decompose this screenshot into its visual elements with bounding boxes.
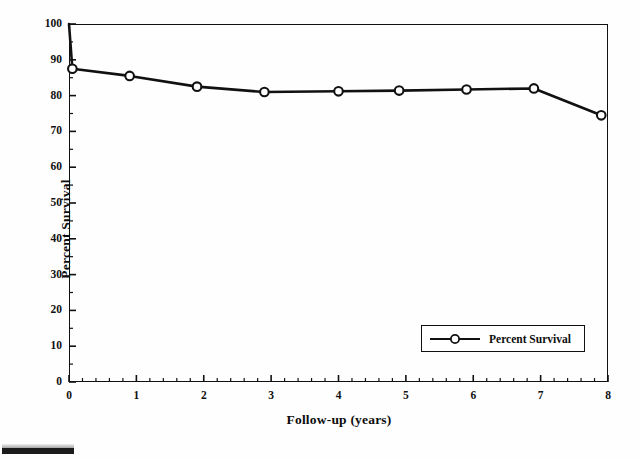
x-tick-label: 0	[66, 390, 72, 402]
legend[interactable]: Percent Survival	[421, 325, 585, 352]
x-tick-label: 7	[538, 390, 544, 402]
y-tick-label: 20	[28, 305, 62, 317]
legend-label-percent-survival: Percent Survival	[489, 333, 571, 345]
y-tick-label: 80	[28, 90, 62, 102]
figure-canvas: 0102030405060708090100 012345678 Percent…	[0, 0, 640, 458]
y-axis-title: Percent Survival	[58, 179, 74, 278]
x-tick-label: 1	[134, 390, 140, 402]
scan-artifact-bar	[2, 448, 74, 454]
series-line-percent-survival	[69, 24, 601, 115]
chart-svg	[0, 0, 640, 458]
x-tick-label: 2	[201, 390, 207, 402]
y-tick-label: 90	[28, 54, 62, 66]
legend-marker-icon	[429, 332, 481, 346]
y-tick-label: 70	[28, 126, 62, 138]
x-tick-label: 3	[268, 390, 274, 402]
x-tick-label: 6	[470, 390, 476, 402]
y-tick-label: 100	[28, 18, 62, 30]
x-tick-label: 8	[605, 390, 611, 402]
y-tick-label: 0	[28, 376, 62, 388]
y-tick-label: 60	[28, 161, 62, 173]
y-tick-label: 10	[28, 340, 62, 352]
x-tick-label: 5	[403, 390, 409, 402]
x-tick-label: 4	[336, 390, 342, 402]
series-markers-percent-survival	[68, 64, 605, 119]
x-axis-title: Follow-up (years)	[286, 412, 391, 428]
